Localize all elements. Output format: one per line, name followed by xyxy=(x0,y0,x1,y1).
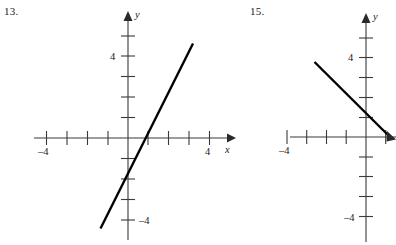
x-tick-label-minus4-15: –4 xyxy=(278,145,290,156)
plot-line-15 xyxy=(315,62,393,139)
figure-13: 13. –4 4 4 –4 x y xyxy=(0,0,240,245)
graph-13: –4 4 4 –4 x y xyxy=(0,0,240,245)
figure-15: 15. –4 4 –4 y xyxy=(240,0,396,245)
y-axis-label-13: y xyxy=(134,9,140,20)
plot-line-arrow-icon-15 xyxy=(387,131,396,142)
x-axis-label-13: x xyxy=(224,144,230,155)
y-tick-label-4-13: 4 xyxy=(110,51,116,62)
y-axis-arrow-icon-15 xyxy=(362,13,371,23)
y-axis-arrow-icon-13 xyxy=(124,11,133,21)
y-tick-label-minus4-13: –4 xyxy=(138,215,150,226)
y-tick-label-4-15: 4 xyxy=(348,52,354,63)
x-tick-label-minus4-13: –4 xyxy=(37,146,49,157)
y-tick-label-minus4-15: –4 xyxy=(343,212,355,223)
plot-line-13 xyxy=(101,44,194,229)
y-axis-label-15: y xyxy=(372,11,378,22)
x-axis-arrow-icon-13 xyxy=(227,134,236,143)
x-tick-label-4-13: 4 xyxy=(205,146,211,157)
graph-15: –4 4 –4 y xyxy=(240,0,396,245)
